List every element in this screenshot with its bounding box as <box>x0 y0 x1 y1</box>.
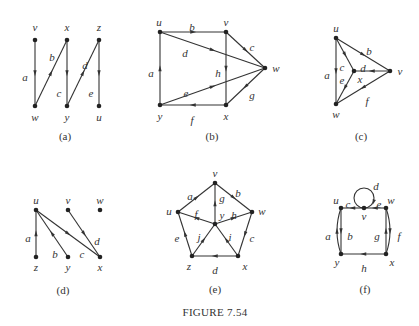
vertex-label: x <box>223 110 229 122</box>
arrowhead-icon <box>360 85 366 90</box>
vertex-label: v <box>33 21 38 33</box>
arrowhead-icon <box>80 70 84 76</box>
vertex-label: z <box>96 21 102 33</box>
edge-label: b <box>235 187 241 199</box>
diagram-e: abcdefghijvuwyzx(e) <box>166 167 266 296</box>
vertex-v <box>33 38 38 43</box>
arrowhead-icon <box>212 254 218 257</box>
diagram-caption: (c) <box>355 130 368 143</box>
vertex-label: v <box>398 65 403 77</box>
vertex-v <box>388 69 393 74</box>
edge-label: d <box>212 264 218 276</box>
vertex-x <box>352 69 357 74</box>
diagram-b: abcdefghuvwyx(b) <box>148 16 280 143</box>
vertex-u <box>339 206 344 211</box>
vertex-u <box>176 210 181 215</box>
arrowhead-icon <box>48 70 52 76</box>
vertex-y <box>213 222 218 227</box>
figure-title: FIGURE 7.54 <box>182 306 247 318</box>
edge-label: a <box>148 67 154 79</box>
edge-label: c <box>80 248 85 260</box>
edge-label: a <box>22 71 28 83</box>
vertex-label: z <box>186 260 192 272</box>
arrowhead-icon <box>360 252 366 255</box>
edge-label: c <box>250 41 255 53</box>
edge-label: e <box>340 74 345 86</box>
edge-label: b <box>52 248 58 260</box>
vertex-u <box>34 208 39 213</box>
vertex-label: y <box>64 111 70 123</box>
vertex-label: v <box>213 167 218 179</box>
edge-label: e <box>89 87 94 99</box>
edge-label: j <box>195 231 200 243</box>
edge-label: f <box>397 230 402 242</box>
vertex-label: u <box>156 16 162 28</box>
edge-label: e <box>377 198 382 210</box>
edge-label: d <box>373 180 379 192</box>
arrowhead-icon <box>158 65 161 71</box>
arrowhead-icon <box>388 228 391 234</box>
edge-label: a <box>187 190 193 202</box>
arrowhead-icon <box>360 52 366 57</box>
vertex-label: w <box>96 194 104 206</box>
edge-label: f <box>190 114 195 126</box>
edge-label: d <box>94 235 100 247</box>
vertex-v <box>213 181 218 186</box>
vertex-label: x <box>242 260 248 272</box>
vertex-w <box>250 210 255 215</box>
edge-label: g <box>249 89 255 101</box>
vertex-v <box>224 30 229 35</box>
vertex-label: u <box>333 22 339 34</box>
edge-label: d <box>182 47 188 59</box>
arrowhead-icon <box>224 66 227 72</box>
edge-label: f <box>365 95 370 107</box>
edge-label: a <box>324 69 330 81</box>
vertex-label: w <box>272 62 280 74</box>
vertex-x <box>65 38 70 43</box>
vertex-label: u <box>333 194 339 206</box>
vertex-z <box>190 254 195 259</box>
vertex-label: v <box>362 210 367 222</box>
vertex-label: w <box>332 108 340 120</box>
arrowhead-icon <box>373 199 376 205</box>
diagram-caption: (d) <box>57 284 70 297</box>
edge-label: b <box>189 21 195 33</box>
diagram-d: abcduvwzyx(d) <box>25 194 104 297</box>
arrowhead-icon <box>34 230 37 236</box>
vertex-y <box>65 104 70 109</box>
diagram-a: abcdevxzwyu(a) <box>22 21 102 143</box>
arrowhead-icon <box>65 70 68 76</box>
arrowhead-icon <box>190 103 196 106</box>
arrowhead-icon <box>209 48 215 51</box>
edge-label: h <box>231 209 237 221</box>
vertex-label: y <box>219 209 225 221</box>
vertex-label: y <box>65 261 71 273</box>
vertex-y <box>66 255 71 260</box>
vertex-x <box>98 255 103 260</box>
vertex-label: z <box>33 261 39 273</box>
vertex-label: y <box>157 110 163 122</box>
edge-label: a <box>325 230 331 242</box>
vertex-x <box>236 254 241 259</box>
vertex-u <box>158 30 163 35</box>
arrowhead-icon <box>244 231 247 237</box>
edge-f-d <box>354 188 374 208</box>
edge-label: c <box>250 232 255 244</box>
vertex-z <box>97 38 102 43</box>
edge-label: b <box>366 45 372 57</box>
edge-label: d <box>82 59 88 71</box>
vertex-label: x <box>389 256 395 268</box>
vertex-w <box>334 102 339 107</box>
edge-label: a <box>25 232 31 244</box>
arrowhead-icon <box>97 70 100 76</box>
edge-label: b <box>347 230 353 242</box>
vertex-label: w <box>387 194 395 206</box>
vertex-label: v <box>66 194 71 206</box>
arrowhead-icon <box>369 69 375 72</box>
arrowhead-icon <box>184 231 187 237</box>
arrowhead-icon <box>384 228 387 234</box>
vertex-w <box>33 104 38 109</box>
vertex-x <box>384 252 389 257</box>
edge-label: e <box>184 87 189 99</box>
arrowhead-icon <box>213 200 216 206</box>
